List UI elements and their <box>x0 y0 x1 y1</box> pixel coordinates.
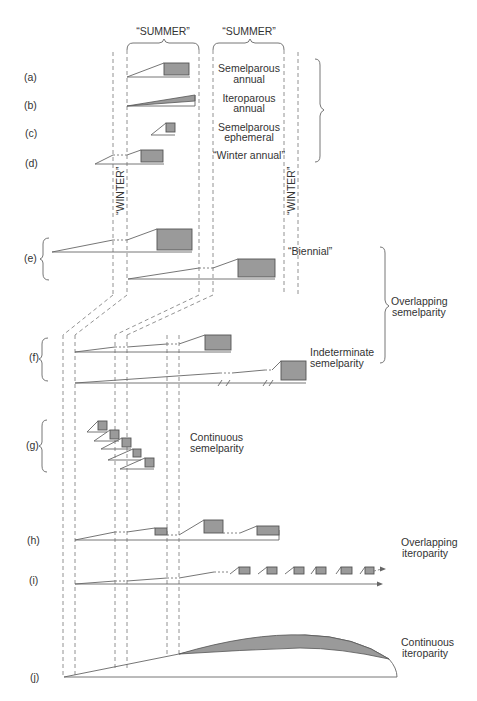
desc-a-line2: annual <box>233 73 265 85</box>
summer-brace-1 <box>127 39 199 50</box>
row-f-brace <box>39 338 48 381</box>
row-label-d: (d) <box>25 157 38 169</box>
overlapping-semelparity-line2: semelparity <box>392 306 446 318</box>
row-f-glyph <box>75 335 306 386</box>
desc-e: “Biennial” <box>288 245 333 257</box>
row-label-e: (e) <box>24 252 37 264</box>
annuals-brace <box>315 59 324 162</box>
row-h-glyph <box>75 520 279 540</box>
row-j-glyph <box>64 635 397 677</box>
desc-d: “Winter annual” <box>213 149 285 161</box>
row-b-glyph <box>127 95 195 106</box>
summer-brace-2 <box>213 39 284 50</box>
row-g-brace <box>39 420 47 472</box>
row-g-glyph <box>87 421 154 469</box>
row-label-c: (c) <box>25 127 37 139</box>
row-labels: (a) (b) (c) (d) (e) (f) (g) (h) (i) (j) <box>24 71 40 683</box>
life-history-diagram: “SUMMER” “SUMMER” “WINTER” “WINTER” (a) … <box>0 0 477 701</box>
row-d-glyph <box>95 150 164 164</box>
continuous-iteroparity-line2: iteroparity <box>402 647 449 659</box>
overlapping-semelparity-brace <box>380 247 389 363</box>
desc-g-line2: semelparity <box>190 442 244 454</box>
row-e-brace <box>40 238 49 280</box>
diagram-canvas: “SUMMER” “SUMMER” “WINTER” “WINTER” (a) … <box>0 0 477 701</box>
row-label-b: (b) <box>24 99 37 111</box>
desc-b-line2: annual <box>233 102 265 114</box>
row-label-i: (i) <box>29 574 38 586</box>
row-label-a: (a) <box>24 71 37 83</box>
descriptions: Semelparous annual Iteroparous annual Se… <box>190 62 374 454</box>
season-header: “SUMMER” “SUMMER” <box>127 25 284 50</box>
overlapping-iteroparity-line2: iteroparity <box>402 547 449 559</box>
row-e-glyph <box>52 229 275 279</box>
row-label-h: (h) <box>27 534 40 546</box>
summer-label-1: “SUMMER” <box>136 25 190 37</box>
row-label-g: (g) <box>26 439 39 451</box>
desc-f-line2: semelparity <box>310 357 364 369</box>
row-c-glyph <box>151 123 175 135</box>
row-label-f: (f) <box>29 351 39 363</box>
winter-label-1: “WINTER” <box>114 166 126 215</box>
row-label-j: (j) <box>30 671 39 683</box>
summer-label-2: “SUMMER” <box>222 25 276 37</box>
desc-c-line2: ephemeral <box>224 131 274 143</box>
row-a-glyph <box>127 63 190 77</box>
winter-label-2: “WINTER” <box>285 166 297 215</box>
row-i-glyph <box>75 567 386 587</box>
